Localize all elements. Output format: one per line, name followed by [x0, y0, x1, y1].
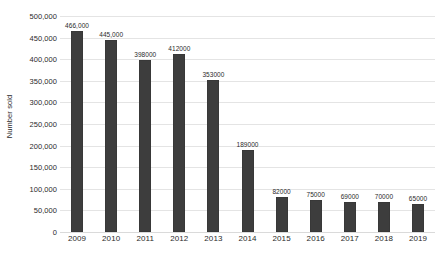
x-axis-tick-label: 2015 [265, 234, 299, 250]
x-axis-tick-label: 2012 [162, 234, 196, 250]
x-axis-tick-label: 2016 [299, 234, 333, 250]
y-axis-tick-label: 400,000 [30, 55, 57, 64]
plot-area: 466,000445,00039800041200035300018900082… [60, 16, 435, 232]
x-axis-tick-label: 2014 [230, 234, 264, 250]
bar-slot: 75000 [299, 16, 333, 232]
bar-slot: 189000 [230, 16, 264, 232]
bar [105, 40, 117, 232]
axis-baseline [60, 232, 435, 233]
x-axis-tick-label: 2018 [367, 234, 401, 250]
bar-slot: 65000 [401, 16, 435, 232]
bar-value-label: 412000 [168, 45, 190, 52]
bar-value-label: 189000 [237, 141, 259, 148]
bar-slot: 69000 [333, 16, 367, 232]
y-axis-tick-label: 200,000 [30, 141, 57, 150]
bar [310, 200, 322, 232]
bar [139, 60, 151, 232]
y-axis-tick-label: 500,000 [30, 12, 57, 21]
bar [344, 202, 356, 232]
y-axis-tick-label: 350,000 [30, 76, 57, 85]
bar-chart: Number sold 050,000100,000150,000200,000… [0, 0, 439, 258]
bar [378, 202, 390, 232]
x-axis-tick-label: 2013 [196, 234, 230, 250]
bar-value-label: 353000 [202, 71, 224, 78]
y-axis-tick-labels: 050,000100,000150,000200,000250,000300,0… [14, 0, 60, 232]
y-axis-tick-label: 50,000 [34, 206, 57, 215]
bar-value-label: 82000 [272, 188, 290, 195]
y-axis-tick-label: 0 [53, 228, 57, 237]
bar-slot: 70000 [367, 16, 401, 232]
x-axis-tick-label: 2017 [333, 234, 367, 250]
bar-slot: 466,000 [60, 16, 94, 232]
bar [207, 80, 219, 232]
bar-slot: 412000 [162, 16, 196, 232]
bar-slot: 398000 [128, 16, 162, 232]
bar [242, 150, 254, 232]
bar-series: 466,000445,00039800041200035300018900082… [60, 16, 435, 232]
bar-value-label: 466,000 [65, 22, 89, 29]
y-axis-tick-label: 100,000 [30, 184, 57, 193]
bar [412, 204, 424, 232]
y-axis-tick-label: 150,000 [30, 163, 57, 172]
x-axis-tick-labels: 2009201020112012201320142015201620172018… [60, 234, 435, 250]
y-axis-tick-label: 450,000 [30, 33, 57, 42]
y-axis-tick-label: 300,000 [30, 98, 57, 107]
x-axis-tick-label: 2019 [401, 234, 435, 250]
bar [276, 197, 288, 232]
x-axis-tick-label: 2009 [60, 234, 94, 250]
bar-slot: 82000 [265, 16, 299, 232]
bar [173, 54, 185, 232]
y-axis-tick-label: 250,000 [30, 120, 57, 129]
bar-value-label: 69000 [341, 193, 359, 200]
bar-slot: 353000 [196, 16, 230, 232]
bar-slot: 445,000 [94, 16, 128, 232]
bar-value-label: 65000 [409, 195, 427, 202]
bar [71, 31, 83, 232]
bar-value-label: 445,000 [99, 31, 123, 38]
bar-value-label: 398000 [134, 51, 156, 58]
bar-value-label: 75000 [307, 191, 325, 198]
bar-value-label: 70000 [375, 193, 393, 200]
x-axis-tick-label: 2010 [94, 234, 128, 250]
x-axis-tick-label: 2011 [128, 234, 162, 250]
